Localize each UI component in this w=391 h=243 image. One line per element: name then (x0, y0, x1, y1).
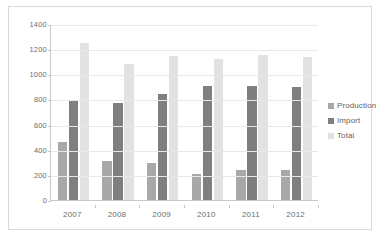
bar-production-2010[interactable] (192, 174, 202, 200)
y-tick-mark (48, 151, 51, 152)
legend-item-import[interactable]: Import (328, 116, 388, 125)
bar-group (96, 25, 141, 200)
x-tick-label-2010: 2010 (184, 210, 229, 219)
bar-production-2008[interactable] (102, 161, 112, 200)
x-tick-mark (318, 205, 319, 208)
legend-item-production[interactable]: Production (328, 101, 388, 110)
bar-total-2009[interactable] (169, 56, 179, 200)
legend-label: Import (337, 116, 360, 125)
x-tick-mark (229, 205, 230, 208)
bar-group (51, 25, 96, 200)
y-tick-label: 1400 (30, 21, 48, 29)
x-tick-label-2007: 2007 (50, 210, 95, 219)
y-tick-label: 1000 (30, 71, 48, 79)
bar-group (274, 25, 319, 200)
y-tick-label: 200 (34, 172, 47, 180)
legend-swatch-import-icon (328, 118, 334, 124)
x-tick-mark (184, 205, 185, 208)
bar-total-2010[interactable] (214, 59, 224, 200)
x-tick-label-2012: 2012 (273, 210, 318, 219)
y-tick-label: 800 (34, 96, 47, 104)
gridline (51, 176, 318, 177)
legend-label: Production (337, 101, 376, 110)
legend-swatch-production-icon (328, 103, 334, 109)
x-tick-mark (95, 205, 96, 208)
x-axis: 200720082009201020112012 (50, 205, 318, 219)
gridline (51, 151, 318, 152)
bar-total-2008[interactable] (124, 64, 134, 200)
bar-import-2011[interactable] (247, 86, 257, 200)
bar-import-2009[interactable] (158, 94, 168, 200)
bar-production-2012[interactable] (281, 170, 291, 200)
x-tick-label-2009: 2009 (139, 210, 184, 219)
y-tick-mark (48, 25, 51, 26)
bars-layer (51, 25, 318, 200)
y-tick-label: 0 (43, 197, 47, 205)
bar-import-2012[interactable] (292, 87, 302, 200)
y-tick-mark (48, 50, 51, 51)
y-tick-mark (48, 75, 51, 76)
y-tick-mark (48, 176, 51, 177)
y-tick-mark (48, 100, 51, 101)
y-tick-label: 400 (34, 147, 47, 155)
chart-legend: ProductionImportTotal (328, 101, 388, 146)
gridline (51, 126, 318, 127)
bar-total-2011[interactable] (258, 55, 268, 200)
plot-area (50, 25, 318, 201)
gridline (51, 50, 318, 51)
gridline (51, 25, 318, 26)
bar-group (140, 25, 185, 200)
legend-swatch-total-icon (328, 133, 334, 139)
gridline (51, 100, 318, 101)
y-axis: 0200400600800100012001400 (17, 7, 47, 229)
gridline (51, 75, 318, 76)
x-tick-label-2011: 2011 (229, 210, 274, 219)
bar-group (185, 25, 230, 200)
legend-item-total[interactable]: Total (328, 131, 388, 140)
x-tick-label-2008: 2008 (95, 210, 140, 219)
y-tick-label: 600 (34, 122, 47, 130)
bar-total-2012[interactable] (303, 57, 313, 200)
chart-container: 0200400600800100012001400 20072008200920… (0, 0, 391, 243)
bar-group (230, 25, 275, 200)
y-tick-label: 1200 (30, 46, 48, 54)
x-tick-mark (139, 205, 140, 208)
bar-import-2010[interactable] (203, 86, 213, 200)
x-tick-mark (273, 205, 274, 208)
y-tick-mark (48, 126, 51, 127)
chart-frame: 0200400600800100012001400 20072008200920… (8, 6, 372, 230)
legend-label: Total (337, 131, 354, 140)
y-tick-mark (48, 201, 51, 202)
bar-production-2009[interactable] (147, 163, 157, 200)
